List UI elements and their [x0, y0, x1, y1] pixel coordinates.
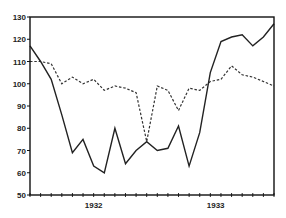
y-axis-ticks: 5060708090100110120130: [13, 13, 30, 200]
x-tick-label: 1933: [207, 201, 225, 210]
y-tick-label: 100: [13, 80, 27, 89]
y-tick-label: 110: [13, 58, 26, 67]
y-tick-label: 130: [13, 13, 27, 22]
x-axis-labels: 19321933: [85, 201, 225, 210]
y-tick-label: 50: [17, 191, 26, 200]
y-tick-label: 80: [17, 124, 26, 133]
y-tick-label: 60: [17, 169, 26, 178]
y-tick-label: 120: [13, 35, 27, 44]
y-tick-label: 90: [17, 102, 26, 111]
y-tick-label: 70: [17, 147, 26, 156]
line-chart: 5060708090100110120130 19321933: [0, 0, 286, 218]
plot-frame: [30, 17, 274, 195]
x-tick-label: 1932: [85, 201, 103, 210]
series-solid-line: [30, 24, 274, 173]
